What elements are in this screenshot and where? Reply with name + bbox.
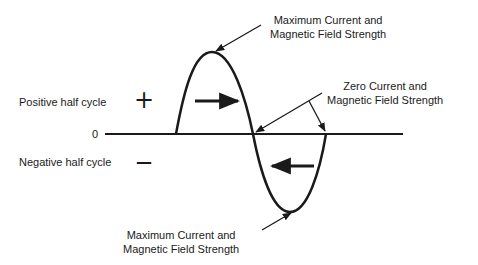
ac-sine-wave-diagram: Maximum Current and Magnetic Field Stren… xyxy=(0,0,478,265)
waveform-graphic xyxy=(0,0,478,265)
positive-half-cycle-label: Positive half cycle xyxy=(19,95,106,109)
minus-icon: — xyxy=(136,152,152,171)
max-top-label-line1: Maximum Current and xyxy=(270,13,386,27)
zero-current-label: Zero Current and Magnetic Field Strength xyxy=(327,79,443,107)
max-bottom-label-line1: Maximum Current and xyxy=(123,228,239,242)
zero-label-line2: Magnetic Field Strength xyxy=(327,93,443,107)
max-bottom-label: Maximum Current and Magnetic Field Stren… xyxy=(123,228,239,256)
negative-half-cycle-label: Negative half cycle xyxy=(19,155,111,169)
zero-label-line1: Zero Current and xyxy=(327,79,443,93)
max-top-label: Maximum Current and Magnetic Field Stren… xyxy=(270,13,386,41)
max-top-label-line2: Magnetic Field Strength xyxy=(270,27,386,41)
zero-leader-line xyxy=(256,93,322,132)
max-bottom-leader-arrow-icon xyxy=(262,213,291,230)
max-top-leader-arrow-icon xyxy=(216,25,261,51)
positive-half-cycle-curve xyxy=(176,52,253,134)
zero-leader-branch-arrow-icon xyxy=(309,101,325,131)
negative-half-cycle-curve xyxy=(253,134,326,212)
plus-icon: + xyxy=(134,86,154,114)
max-bottom-label-line2: Magnetic Field Strength xyxy=(123,242,239,256)
zero-label: 0 xyxy=(92,127,98,141)
